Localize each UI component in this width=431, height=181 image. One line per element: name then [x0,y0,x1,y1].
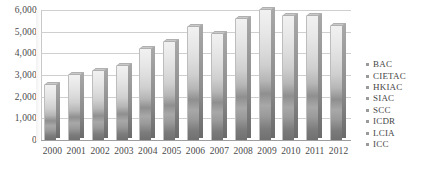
x-axis-tick-label: 2002 [88,146,112,157]
x-axis-tick-label: 2000 [41,146,65,157]
bar-front-face [68,75,80,141]
y-axis-tick-label: 1,000 [15,114,37,124]
legend-label: SCC [373,106,391,115]
legend-swatch-icon [366,75,369,78]
chart-legend: BACCIETACHKIACSIACSCCICDRLCIAICC [366,59,430,150]
legend-label: CIETAC [373,72,406,81]
x-axis-tick-label: 2001 [64,146,88,157]
x-axis-tick-label: 2003 [112,146,136,157]
x-axis: 2000200120022003200420052006200720082009… [41,146,357,162]
x-axis-tick-label: 2007 [207,146,231,157]
y-axis-tick-label: 5,000 [15,28,37,38]
legend-swatch-icon [366,143,369,146]
legend-swatch-icon [366,109,369,112]
bar-front-face [235,19,247,141]
legend-item[interactable]: ICDR [366,116,430,127]
bar-side-face [175,39,179,138]
x-axis-tick-label: 2004 [136,146,160,157]
legend-item[interactable]: ICC [366,139,430,150]
bar-side-face [294,13,298,138]
y-axis-tick-label: 6,000 [15,6,37,16]
bar-side-face [151,46,155,138]
bar-front-face [139,49,151,141]
bar-side-face [223,31,227,138]
x-axis-tick-label: 2012 [327,146,351,157]
legend-swatch-icon [366,132,369,135]
x-axis-tick-label: 2010 [279,146,303,157]
legend-item[interactable]: BAC [366,59,430,70]
bar-side-face [342,23,346,138]
x-axis-line [41,140,351,141]
bar-front-face [92,71,104,141]
legend-item[interactable]: HKIAC [366,82,430,93]
bar-series [41,10,351,141]
legend-label: HKIAC [373,83,403,92]
bar-side-face [199,24,203,138]
bar-side-face [247,16,251,138]
legend-swatch-icon [366,97,369,100]
legend-label: SIAC [373,94,394,103]
y-axis-tick-label: 4,000 [15,49,37,59]
bar-front-face [211,34,223,141]
legend-item[interactable]: LCIA [366,127,430,138]
bar-side-face [104,68,108,138]
legend-item[interactable]: SCC [366,105,430,116]
bar-front-face [330,26,342,141]
bar-chart: 6,000 5,000 4,000 3,000 2,000 1,000 0 20… [0,0,431,181]
legend-label: BAC [373,60,392,69]
legend-item[interactable]: CIETAC [366,70,430,81]
x-axis-tick-label: 2009 [255,146,279,157]
y-axis-tick-label: 3,000 [15,71,37,81]
bar-front-face [163,42,175,141]
bar-side-face [271,7,275,138]
legend-label: LCIA [373,129,395,138]
bar-side-face [318,13,322,138]
bar-side-face [56,82,60,138]
bar-front-face [259,10,271,141]
legend-item[interactable]: SIAC [366,93,430,104]
x-axis-tick-label: 2008 [231,146,255,157]
legend-label: ICDR [373,117,395,126]
bar-side-face [128,63,132,138]
legend-swatch-icon [366,120,369,123]
bar-front-face [187,27,199,141]
bar-front-face [306,16,318,141]
bar-front-face [44,85,56,141]
y-axis-tick-label: 2,000 [15,93,37,103]
x-axis-tick-label: 2006 [184,146,208,157]
y-axis: 6,000 5,000 4,000 3,000 2,000 1,000 0 [0,0,40,181]
bar-front-face [116,66,128,141]
legend-label: ICC [373,140,389,149]
x-axis-tick-label: 2005 [160,146,184,157]
legend-swatch-icon [366,63,369,66]
bar-front-face [282,16,294,141]
legend-swatch-icon [366,86,369,89]
bar-side-face [80,72,84,138]
x-axis-tick-label: 2011 [303,146,327,157]
plot-area [41,10,351,141]
